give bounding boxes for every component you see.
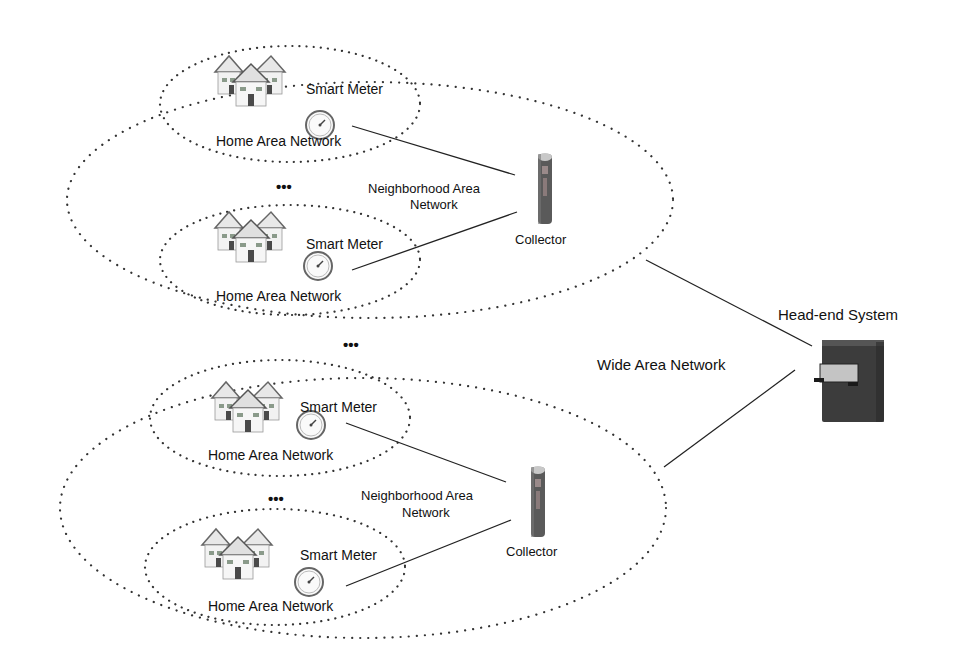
houses-icon	[202, 529, 272, 579]
houses-icon	[215, 212, 285, 262]
wan-link-line	[646, 260, 812, 346]
headend-server-icon	[814, 340, 884, 422]
network-diagram: Smart Meter Home Area Network Smart Mete…	[0, 0, 968, 670]
nan-label-line1: Neighborhood Area	[361, 488, 474, 503]
collector-icon	[538, 153, 552, 224]
nan-cluster-bottom: Smart Meter Home Area Network Smart Mete…	[60, 360, 666, 638]
houses-icon	[215, 56, 285, 106]
han-label: Home Area Network	[216, 133, 342, 149]
smart-meter-label: Smart Meter	[306, 81, 383, 97]
han-label: Home Area Network	[208, 598, 334, 614]
collector-label: Collector	[506, 544, 558, 559]
nan-label-line2: Network	[410, 197, 458, 212]
nan-boundary	[67, 82, 673, 318]
more-nans-ellipsis: •••	[343, 336, 359, 353]
collector-icon	[531, 466, 545, 537]
smart-meter-icon	[295, 568, 323, 596]
nan-boundary	[60, 378, 666, 638]
headend-label: Head-end System	[778, 306, 898, 323]
smart-meter-icon	[297, 411, 325, 439]
nan-label-line1: Neighborhood Area	[368, 181, 481, 196]
han-label: Home Area Network	[208, 447, 334, 463]
han-label: Home Area Network	[216, 288, 342, 304]
smart-meter-label: Smart Meter	[306, 236, 383, 252]
nan-cluster-top: Smart Meter Home Area Network Smart Mete…	[67, 46, 673, 318]
wan-label: Wide Area Network	[597, 356, 726, 373]
smart-meter-label: Smart Meter	[300, 399, 377, 415]
nan-label-line2: Network	[402, 505, 450, 520]
han-link-line	[346, 423, 506, 482]
han-link-line	[352, 126, 515, 175]
smart-meter-label: Smart Meter	[300, 547, 377, 563]
more-hans-ellipsis: •••	[268, 490, 284, 507]
more-hans-ellipsis: •••	[276, 178, 292, 195]
smart-meter-icon	[304, 252, 332, 280]
houses-icon	[212, 382, 282, 432]
collector-label: Collector	[515, 232, 567, 247]
wan-link-line	[664, 370, 795, 467]
